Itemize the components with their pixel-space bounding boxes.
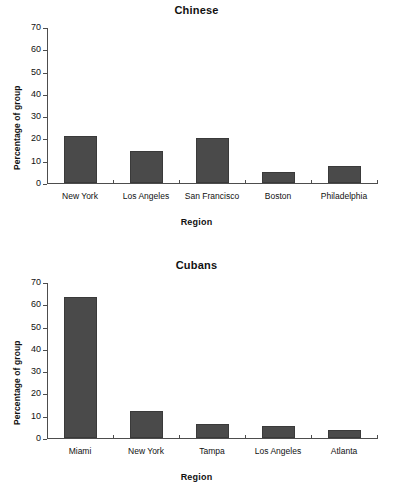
x-category-label-chinese-los-angeles: Los Angeles (123, 191, 169, 201)
x-axis-tick-cubans-2 (245, 435, 246, 439)
y-tick-label: 50 (31, 322, 41, 332)
y-tick-label: 30 (31, 366, 41, 376)
x-category-label-cubans-miami: Miami (69, 446, 92, 456)
x-axis-tick-cubans-3 (311, 435, 312, 439)
y-tick-mark (43, 139, 47, 140)
x-axis-tick-cubans-origin (47, 435, 48, 439)
y-tick-mark (43, 439, 47, 440)
x-category-label-cubans-new-york: New York (128, 446, 164, 456)
x-category-label-cubans-los-angeles: Los Angeles (255, 446, 301, 456)
y-tick-label: 10 (31, 156, 41, 166)
y-tick-mark (43, 350, 47, 351)
bar-cubans-los-angeles (262, 426, 295, 438)
bar-cubans-miami (64, 297, 97, 439)
x-axis-tick-chinese-origin (47, 180, 48, 184)
x-axis-tick-chinese-0 (113, 180, 114, 184)
bar-chinese-new-york (64, 136, 97, 183)
chart-title-cubans: Cubans (0, 259, 393, 271)
y-tick-label: 70 (31, 277, 41, 287)
y-tick-label: 0 (36, 178, 41, 188)
y-tick-label: 40 (31, 89, 41, 99)
y-tick-mark (43, 117, 47, 118)
y-tick-label: 20 (31, 388, 41, 398)
y-tick-label: 30 (31, 111, 41, 121)
y-tick-label: 0 (36, 433, 41, 443)
x-axis-tick-chinese-2 (245, 180, 246, 184)
y-tick-label: 10 (31, 411, 41, 421)
y-tick-mark (43, 305, 47, 306)
y-tick-mark (43, 417, 47, 418)
x-axis-tick-cubans-4 (377, 435, 378, 439)
y-axis-line-chinese (47, 28, 48, 184)
y-tick-mark (43, 28, 47, 29)
chart-figure-cubans: Cubans Percentage of group 0102030405060… (0, 243, 393, 486)
y-tick-label: 70 (31, 22, 41, 32)
x-axis-tick-chinese-1 (179, 180, 180, 184)
x-axis-line-chinese (47, 183, 377, 184)
x-axis-tick-cubans-1 (179, 435, 180, 439)
plot-area-chinese: 010203040506070 (47, 28, 377, 184)
y-tick-label: 60 (31, 299, 41, 309)
bar-chinese-los-angeles (130, 151, 163, 183)
y-tick-label: 40 (31, 344, 41, 354)
y-tick-label: 20 (31, 133, 41, 143)
y-tick-mark (43, 50, 47, 51)
plot-area-cubans: 010203040506070 (47, 283, 377, 439)
x-category-label-chinese-boston: Boston (265, 191, 291, 201)
x-category-label-cubans-atlanta: Atlanta (331, 446, 357, 456)
y-tick-mark (43, 328, 47, 329)
x-axis-tick-chinese-3 (311, 180, 312, 184)
bar-chinese-boston (262, 172, 295, 183)
y-axis-label-cubans: Percentage of group (12, 340, 22, 425)
y-tick-mark (43, 73, 47, 74)
bar-cubans-tampa (196, 424, 229, 438)
y-tick-mark (43, 394, 47, 395)
y-tick-mark (43, 162, 47, 163)
x-axis-label-cubans: Region (0, 472, 393, 482)
chart-figure-chinese: Chinese Percentage of group 010203040506… (0, 0, 393, 243)
y-tick-mark (43, 283, 47, 284)
bar-chinese-san-francisco (196, 138, 229, 183)
x-axis-tick-chinese-4 (377, 180, 378, 184)
y-axis-label-chinese: Percentage of group (12, 85, 22, 170)
x-axis-tick-cubans-0 (113, 435, 114, 439)
x-category-label-chinese-san-francisco: San Francisco (185, 191, 239, 201)
y-tick-label: 60 (31, 44, 41, 54)
y-axis-line-cubans (47, 283, 48, 439)
bar-cubans-new-york (130, 411, 163, 438)
y-tick-mark (43, 184, 47, 185)
bar-chinese-philadelphia (328, 166, 361, 183)
chart-title-chinese: Chinese (0, 4, 393, 16)
x-category-label-chinese-new-york: New York (62, 191, 98, 201)
y-tick-mark (43, 95, 47, 96)
x-axis-label-chinese: Region (0, 217, 393, 227)
x-axis-line-cubans (47, 438, 377, 439)
y-tick-label: 50 (31, 67, 41, 77)
bar-cubans-atlanta (328, 430, 361, 438)
y-tick-mark (43, 372, 47, 373)
x-category-label-chinese-philadelphia: Philadelphia (321, 191, 367, 201)
x-category-label-cubans-tampa: Tampa (199, 446, 225, 456)
